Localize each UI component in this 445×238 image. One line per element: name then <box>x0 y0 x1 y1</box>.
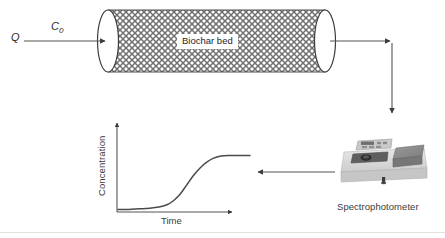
instrument-panel-key-3 <box>362 146 367 148</box>
biochar-bed-label: Biochar bed <box>177 34 238 49</box>
inlet-concentration-subscript: 0 <box>59 26 63 35</box>
inlet-concentration-symbol: C <box>51 20 59 32</box>
instrument-panel-key-1 <box>377 142 381 144</box>
spectrophotometer-caption: Spectrophotometer <box>337 202 419 212</box>
instrument-panel-key-4 <box>369 146 374 148</box>
diagram-canvas: Q C0 Biochar bed Concentration Time Spec… <box>0 0 445 238</box>
instrument-cuvette <box>363 155 369 158</box>
spectrophotometer-image <box>341 139 427 184</box>
instrument-panel-key-2 <box>383 142 387 144</box>
inlet-flow-label: Q <box>11 32 20 43</box>
instrument-panel-key-5 <box>376 146 381 148</box>
breakthrough-curve-graph <box>117 123 250 212</box>
graph-x-axis-label: Time <box>161 216 182 226</box>
instrument-front-knob <box>382 177 385 182</box>
instrument-display <box>361 142 374 145</box>
inlet-concentration-label: C0 <box>51 21 63 35</box>
graph-y-axis-label: Concentration <box>95 124 109 208</box>
graph-curve <box>118 155 250 209</box>
instrument-knob-base <box>381 182 386 184</box>
